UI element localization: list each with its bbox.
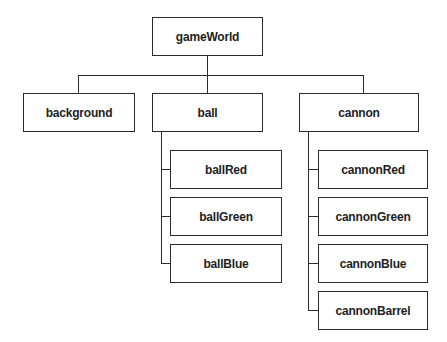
node-cannonBarrel: cannonBarrel <box>318 291 428 330</box>
node-cannonBlue: cannonBlue <box>318 244 428 283</box>
connector-to-cannon <box>363 75 364 93</box>
node-ballGreen: ballGreen <box>170 197 282 236</box>
cannon-trunk <box>308 131 309 310</box>
connector-cannonRed <box>308 169 318 170</box>
connector-cannonBlue <box>308 263 318 264</box>
node-ball: ball <box>152 93 263 132</box>
node-background: background <box>23 93 135 132</box>
node-ballRed: ballRed <box>170 150 282 189</box>
connector-cannonBarrel <box>308 310 318 311</box>
connector-root-down <box>207 55 208 75</box>
node-cannonRed: cannonRed <box>318 150 428 189</box>
connector-to-ball <box>207 75 208 93</box>
node-gameWorld: gameWorld <box>152 17 263 56</box>
connector-cannonGreen <box>308 216 318 217</box>
connector-level1-bar <box>78 75 364 76</box>
connector-to-background <box>78 75 79 93</box>
ball-trunk <box>161 131 162 263</box>
connector-ballBlue <box>161 263 170 264</box>
connector-ballRed <box>161 169 170 170</box>
node-ballBlue: ballBlue <box>170 244 282 283</box>
node-cannon: cannon <box>299 93 419 132</box>
node-cannonGreen: cannonGreen <box>318 197 428 236</box>
connector-ballGreen <box>161 216 170 217</box>
